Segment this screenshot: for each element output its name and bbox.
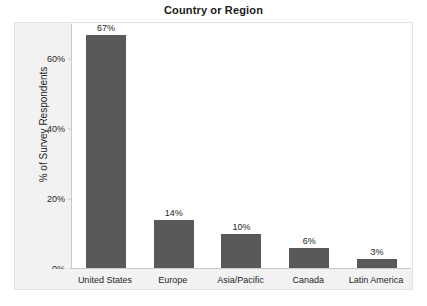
chart-title: Country or Region [0,4,427,16]
x-axis-category-label: Canada [274,275,342,285]
bar-slot: 67% [72,24,140,269]
bar-chart: Country or Region % of Survey Respondent… [0,0,427,306]
bar-value-label: 10% [232,222,250,232]
bar-slot: 6% [275,24,343,269]
bar[interactable] [154,220,194,269]
bar-value-label: 14% [165,208,183,218]
y-axis-label-strip: % of Survey Respondents 0%20%40%60% [15,23,71,289]
y-axis-tick-label: 40% [25,124,65,134]
bar-value-label: 67% [97,23,115,33]
x-axis-category-label: Asia/Pacific [207,275,275,285]
x-axis-label-strip: United StatesEuropeAsia/PacificCanadaLat… [15,269,412,289]
bar-value-label: 6% [303,236,316,246]
y-axis-tick-label: 20% [25,194,65,204]
bar[interactable] [221,234,261,269]
x-axis-category-label: Latin America [342,275,410,285]
bar-slot: 14% [140,24,208,269]
x-axis-category-label: United States [71,275,139,285]
bar[interactable] [289,248,329,269]
x-axis-category-label: Europe [139,275,207,285]
bar-slot: 3% [343,24,411,269]
chart-frame: % of Survey Respondents 0%20%40%60% Unit… [14,22,413,290]
plot-area: 67%14%10%6%3% [71,24,411,269]
x-axis-line [71,268,411,269]
bar[interactable] [86,35,126,270]
y-axis-tick-label: 60% [25,54,65,64]
bar-slot: 10% [208,24,276,269]
bar-value-label: 3% [371,247,384,257]
